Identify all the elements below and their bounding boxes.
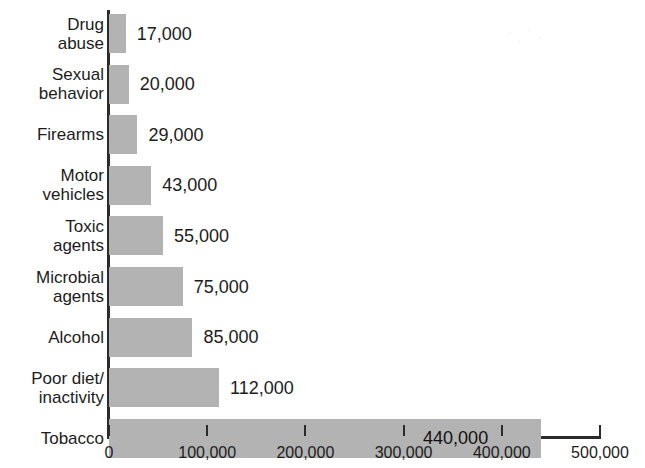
bar (109, 115, 137, 154)
x-axis-tick-label: 400,000 (473, 444, 531, 462)
bar (109, 14, 126, 53)
category-label: Sexual behavior (0, 65, 104, 103)
bar-value-label: 29,000 (148, 125, 203, 145)
bar (109, 216, 163, 255)
x-axis-tick-label: 200,000 (276, 444, 334, 462)
bar-value-label: 17,000 (137, 24, 192, 44)
category-label: Motor vehicles (0, 166, 104, 204)
x-axis-tick (108, 425, 110, 436)
category-label: Tobacco (0, 429, 104, 448)
category-label: Microbial agents (0, 268, 104, 306)
x-axis-tick (304, 425, 306, 436)
bar-chart: Drug abuse17,000Sexual behavior20,000Fir… (0, 0, 645, 468)
x-axis-tick-label: 500,000 (571, 444, 629, 462)
bar-row: Firearms29,000 (0, 115, 645, 154)
bar-row: Alcohol85,000 (0, 318, 645, 357)
bar-row: Microbial agents75,000 (0, 267, 645, 306)
bar-value-label: 43,000 (162, 175, 217, 195)
bar (109, 368, 219, 407)
bar-row: Sexual behavior20,000 (0, 65, 645, 104)
x-axis-tick-label: 100,000 (178, 444, 236, 462)
bar-value-label: 55,000 (174, 226, 229, 246)
bar-value-label: 85,000 (203, 327, 258, 347)
bar (109, 166, 151, 205)
bar (109, 267, 183, 306)
bar-value-label: 20,000 (140, 74, 195, 94)
bar-row: Toxic agents55,000 (0, 216, 645, 255)
plot-area: Drug abuse17,000Sexual behavior20,000Fir… (0, 0, 645, 436)
bar-row: Motor vehicles43,000 (0, 166, 645, 205)
x-axis-tick (501, 425, 503, 436)
x-axis-tick (206, 425, 208, 436)
bar (109, 65, 129, 104)
category-label: Toxic agents (0, 217, 104, 255)
category-label: Drug abuse (0, 15, 104, 53)
bar-value-label: 112,000 (230, 378, 294, 398)
category-label: Firearms (0, 125, 104, 144)
bar-row: Poor diet/ inactivity112,000 (0, 368, 645, 407)
x-axis-tick (403, 425, 405, 436)
bar-value-label: 75,000 (194, 277, 249, 297)
bar (109, 318, 192, 357)
x-axis-tick-label: 300,000 (375, 444, 433, 462)
x-axis-tick-label: 0 (105, 444, 114, 462)
scan-artifact (498, 26, 554, 44)
category-label: Alcohol (0, 328, 104, 347)
category-label: Poor diet/ inactivity (0, 369, 104, 407)
x-axis-tick (599, 425, 601, 439)
